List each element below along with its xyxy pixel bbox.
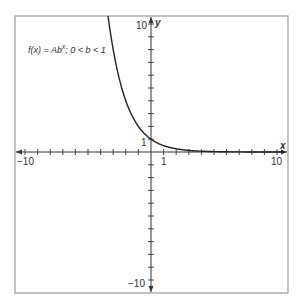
x-tick-label-10: 10 (271, 156, 283, 167)
y-tick-label-1: 1 (141, 137, 147, 148)
x-axis-label: x (279, 140, 286, 151)
y-axis-down-arrow-icon (149, 286, 154, 292)
function-curve (108, 16, 284, 152)
y-tick-label-neg10: −10 (128, 278, 145, 289)
exponential-decay-chart: −10 1 10 10 1 −10 y x f(x) = Abx; 0 < b … (0, 0, 302, 308)
function-annotation: f(x) = Abx; 0 < b < 1 (28, 43, 106, 55)
y-tick-label-10: 10 (136, 20, 148, 31)
axes (16, 17, 287, 292)
y-axis-label: y (154, 17, 161, 28)
x-tick-label-1: 1 (161, 156, 167, 167)
x-axis-left-arrow-icon (16, 150, 22, 155)
y-axis-up-arrow-icon (149, 17, 154, 23)
x-tick-label-neg10: −10 (17, 156, 34, 167)
